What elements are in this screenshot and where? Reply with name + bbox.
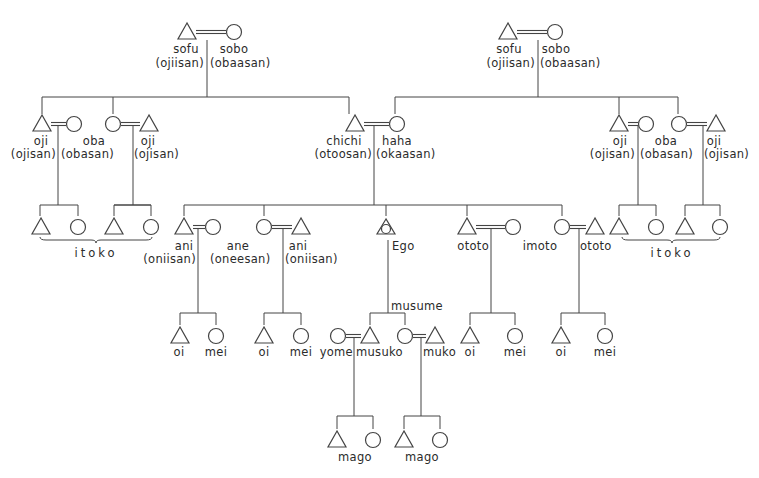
female-circle-icon	[294, 329, 309, 344]
ego-circle-icon	[382, 225, 391, 234]
female-circle-icon	[206, 220, 221, 235]
kin-term-label: mei	[290, 346, 312, 359]
kin-term-label: sofu	[173, 43, 199, 56]
itoko-brace	[622, 237, 720, 243]
female-circle-icon	[257, 220, 272, 235]
kin-term-label: (oniisan)	[285, 253, 338, 266]
diagram-lines	[0, 0, 759, 478]
male-triangle-icon	[255, 327, 273, 343]
male-triangle-icon	[328, 431, 346, 447]
kin-term-label: musuko	[356, 346, 403, 359]
male-triangle-icon	[175, 218, 193, 234]
kin-term-label: oi	[174, 346, 185, 359]
female-circle-icon	[209, 329, 224, 344]
kin-term-label: itoko	[74, 247, 117, 260]
male-triangle-icon	[426, 327, 444, 343]
male-triangle-icon	[140, 115, 158, 131]
female-circle-icon	[331, 329, 346, 344]
kin-term-label: (obaasan)	[210, 57, 270, 70]
male-triangle-icon	[292, 218, 310, 234]
female-circle-icon	[67, 117, 82, 132]
female-circle-icon	[649, 220, 664, 235]
female-circle-icon	[598, 329, 613, 344]
kin-term-label: mei	[594, 346, 616, 359]
kin-term-label: Ego	[392, 240, 415, 253]
female-circle-icon	[144, 220, 159, 235]
kin-term-label: sofu	[496, 43, 522, 56]
male-triangle-icon	[178, 23, 196, 39]
kin-term-label: (oneesan)	[210, 253, 270, 266]
kin-term-label: (ojisan)	[704, 148, 749, 161]
male-triangle-icon	[171, 327, 189, 343]
kin-term-label: (ojisan)	[11, 148, 56, 161]
itoko-brace	[40, 237, 152, 243]
kin-term-label: ototo	[457, 240, 489, 253]
male-triangle-icon	[610, 115, 628, 131]
kin-term-label: (obasan)	[61, 148, 114, 161]
male-triangle-icon	[458, 218, 476, 234]
kin-term-label: mago	[338, 451, 372, 464]
kin-term-label: itoko	[650, 247, 693, 260]
female-circle-icon	[71, 220, 86, 235]
kin-term-label: yome	[320, 346, 353, 359]
kin-term-label: mei	[205, 346, 227, 359]
male-triangle-icon	[395, 431, 413, 447]
kin-term-label: oi	[259, 346, 270, 359]
female-circle-icon	[433, 433, 448, 448]
kin-term-label: imoto	[523, 240, 557, 253]
kin-term-label: (obasan)	[640, 148, 693, 161]
kin-term-label: (ojiisan)	[155, 57, 204, 70]
male-triangle-icon	[707, 115, 725, 131]
kin-term-label: muko	[423, 346, 456, 359]
female-circle-icon	[506, 220, 521, 235]
male-triangle-icon	[552, 327, 570, 343]
kin-term-label: sobo	[220, 43, 249, 56]
female-circle-icon	[390, 117, 405, 132]
female-circle-icon	[555, 220, 570, 235]
kin-term-label: oi	[556, 346, 567, 359]
kin-term-label: mago	[405, 451, 439, 464]
female-circle-icon	[639, 117, 654, 132]
male-triangle-icon	[346, 115, 364, 131]
kin-term-label: musume	[391, 300, 443, 313]
kin-term-label: mei	[504, 346, 526, 359]
male-triangle-icon	[32, 218, 50, 234]
male-triangle-icon	[361, 327, 379, 343]
female-circle-icon	[713, 220, 728, 235]
kin-term-label: (okaasan)	[376, 148, 436, 161]
kin-term-label: (ojisan)	[134, 148, 179, 161]
kin-term-label: (ojisan)	[590, 148, 635, 161]
kin-term-label: (obaasan)	[540, 57, 600, 70]
male-triangle-icon	[105, 218, 123, 234]
female-circle-icon	[227, 25, 242, 40]
female-circle-icon	[508, 329, 523, 344]
kin-term-label: ototo	[580, 240, 612, 253]
male-triangle-icon	[461, 327, 479, 343]
male-triangle-icon	[676, 218, 694, 234]
male-triangle-icon	[33, 115, 51, 131]
kin-term-label: (ojiisan)	[486, 57, 535, 70]
female-circle-icon	[672, 117, 687, 132]
kin-term-label: (oniisan)	[143, 253, 196, 266]
female-circle-icon	[548, 25, 563, 40]
kin-term-label: (otoosan)	[314, 148, 372, 161]
kin-term-label: sobo	[542, 43, 571, 56]
male-triangle-icon	[610, 218, 628, 234]
ego-triangle-icon	[377, 219, 395, 234]
male-triangle-icon	[586, 218, 604, 234]
kinship-diagram: sofu(ojiisan)sobo(obaasan)sofu(ojiisan)s…	[0, 0, 759, 478]
male-triangle-icon	[499, 23, 517, 39]
female-circle-icon	[106, 117, 121, 132]
female-circle-icon	[366, 433, 381, 448]
kin-term-label: oi	[465, 346, 476, 359]
female-circle-icon	[398, 329, 413, 344]
